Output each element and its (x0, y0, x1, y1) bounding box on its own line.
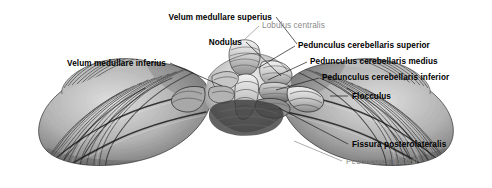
label-velum-medullare-inferius: Velum medullare inferius (67, 59, 166, 69)
label-nodulus: Nodulus (209, 38, 242, 48)
cerebellum-illustration (0, 0, 492, 188)
anatomical-figure-cerebellum: Velum medullare superius Nodulus Velum m… (0, 0, 492, 188)
label-pedunculus-flocculi: Pedunculus flocculi (346, 157, 418, 167)
label-lobulus-centralis: Lobulus centralis (262, 21, 325, 31)
label-pedunculus-cerebellaris-superior: Pedunculus cerebellaris superior (298, 41, 430, 51)
label-pedunculus-cerebellaris-medius: Pedunculus cerebellaris medius (310, 57, 438, 67)
label-fissura-posterolateralis: Fissura posterolateralis (352, 140, 446, 150)
label-velum-medullare-superius: Velum medullare superius (169, 13, 272, 23)
label-flocculus: Flocculus (352, 92, 391, 102)
label-pedunculus-cerebellaris-inferior: Pedunculus cerebellaris inferior (322, 73, 449, 83)
